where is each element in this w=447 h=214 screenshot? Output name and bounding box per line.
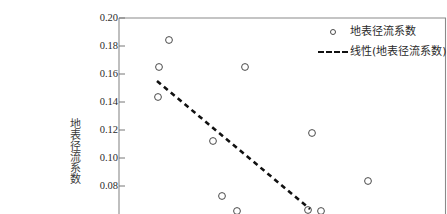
scatter-points [155,37,372,214]
data-point [309,130,316,137]
data-point [155,94,162,101]
data-point [318,208,325,214]
legend: 地表径流系数 线性(地表径流系数) [316,22,444,62]
open-circle-marker-icon [316,25,350,39]
y-tick-marks [119,18,125,186]
dashed-line-icon [316,45,350,59]
legend-label-trendline: 线性(地表径流系数) [350,46,447,58]
trendline [157,81,310,209]
data-point [234,208,241,214]
data-point [305,207,312,214]
legend-item-scatter: 地表径流系数 [316,22,444,42]
legend-item-trendline: 线性(地表径流系数) [316,42,444,62]
data-point [210,138,217,145]
data-point [365,178,372,185]
figure-container: 地表径流系数 0.20 0.18 0.16 0.14 0.12 0.10 0.0… [0,0,447,214]
data-point [242,64,249,71]
data-point [166,37,173,44]
data-point [156,64,163,71]
legend-label-scatter: 地表径流系数 [350,26,416,38]
data-point [219,193,226,200]
